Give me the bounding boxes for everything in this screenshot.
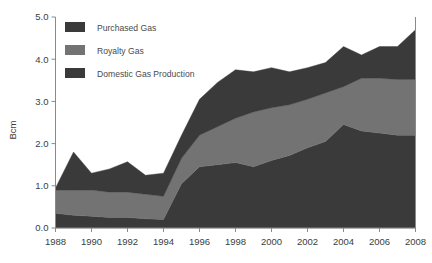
x-tick-label: 2006 bbox=[369, 236, 390, 247]
y-tick-label: 4.0 bbox=[35, 54, 48, 65]
x-tick-label: 2004 bbox=[333, 236, 354, 247]
stacked-area-chart: 0.01.02.03.04.05.01988199019921994199619… bbox=[0, 0, 432, 263]
y-tick-label: 5.0 bbox=[35, 11, 48, 22]
legend-label: Royalty Gas bbox=[97, 46, 144, 56]
legend-swatch bbox=[65, 68, 85, 78]
x-tick-label: 1998 bbox=[225, 236, 246, 247]
legend-swatch bbox=[65, 22, 85, 32]
y-axis-label: Bcm bbox=[7, 120, 18, 139]
x-tick-label: 2008 bbox=[405, 236, 426, 247]
x-tick-label: 1988 bbox=[45, 236, 66, 247]
y-tick-label: 3.0 bbox=[35, 96, 48, 107]
y-tick-label: 0.0 bbox=[35, 222, 48, 233]
x-tick-label: 1992 bbox=[117, 236, 138, 247]
chart-legend: Purchased GasRoyalty GasDomestic Gas Pro… bbox=[65, 22, 195, 79]
chart-canvas: 0.01.02.03.04.05.01988199019921994199619… bbox=[0, 0, 432, 263]
chart-bands bbox=[56, 30, 416, 228]
legend-label: Purchased Gas bbox=[97, 23, 156, 33]
y-tick-label: 1.0 bbox=[35, 180, 48, 191]
x-tick-label: 1996 bbox=[189, 236, 210, 247]
x-tick-label: 2000 bbox=[261, 236, 282, 247]
x-tick-label: 1994 bbox=[153, 236, 174, 247]
legend-swatch bbox=[65, 45, 85, 55]
x-tick-label: 2002 bbox=[297, 236, 318, 247]
y-tick-label: 2.0 bbox=[35, 138, 48, 149]
legend-label: Domestic Gas Production bbox=[97, 69, 195, 79]
x-tick-label: 1990 bbox=[81, 236, 102, 247]
